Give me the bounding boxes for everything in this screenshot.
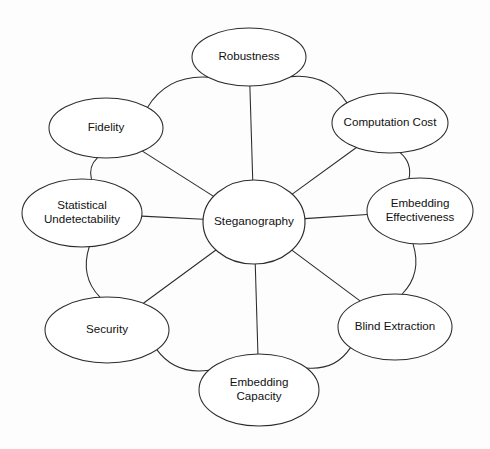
node-label-embedding-effectiveness-line2: Effectiveness [386, 210, 455, 223]
node-label-blind-extraction: Blind Extraction [355, 319, 436, 332]
node-robustness[interactable]: Robustness [192, 28, 306, 86]
diagram-canvas: RobustnessComputation CostEmbeddingEffec… [0, 0, 490, 449]
spoke-steganography-to-embedding-effectiveness [305, 214, 367, 218]
node-blind-extraction[interactable]: Blind Extraction [338, 294, 452, 360]
spoke-steganography-to-robustness [250, 86, 253, 180]
ring-edge-security-to-statistical-undetectability [86, 247, 100, 297]
ring-edge-robustness-to-computation-cost [291, 76, 347, 103]
nodes-group: RobustnessComputation CostEmbeddingEffec… [22, 28, 473, 426]
node-label-security: Security [86, 322, 128, 335]
concept-map-svg: RobustnessComputation CostEmbeddingEffec… [0, 0, 490, 449]
ring-edge-computation-cost-to-embedding-effectiveness [400, 153, 410, 179]
node-label-embedding-capacity-line2: Capacity [236, 389, 281, 402]
ring-edge-fidelity-to-robustness [147, 77, 208, 107]
node-embedding-capacity[interactable]: EmbeddingCapacity [199, 354, 319, 426]
node-steganography[interactable]: Steganography [203, 180, 305, 264]
node-embedding-effectiveness[interactable]: EmbeddingEffectiveness [367, 178, 473, 244]
spoke-steganography-to-fidelity [142, 151, 213, 196]
node-label-statistical-undetectability-line2: Undetectability [44, 212, 120, 225]
node-fidelity[interactable]: Fidelity [49, 98, 163, 158]
spoke-steganography-to-computation-cost [292, 147, 356, 194]
ring-edge-embedding-capacity-to-security [157, 350, 209, 371]
spoke-steganography-to-blind-extraction [292, 250, 360, 301]
node-security[interactable]: Security [45, 297, 169, 363]
node-label-statistical-undetectability: Statistical [57, 198, 107, 211]
node-computation-cost[interactable]: Computation Cost [332, 93, 448, 153]
spoke-steganography-to-statistical-undetectability [142, 216, 203, 219]
spoke-steganography-to-embedding-capacity [255, 264, 258, 354]
spoke-steganography-to-security [143, 250, 216, 303]
node-label-embedding-capacity: Embedding [230, 375, 289, 388]
ring-edge-blind-extraction-to-embedding-capacity [306, 348, 350, 369]
node-label-fidelity: Fidelity [88, 120, 125, 133]
node-statistical-undetectability[interactable]: StatisticalUndetectability [22, 179, 142, 247]
ring-edge-statistical-undetectability-to-fidelity [91, 158, 98, 180]
node-label-steganography: Steganography [214, 214, 294, 228]
node-label-computation-cost: Computation Cost [344, 115, 438, 128]
ring-edge-embedding-effectiveness-to-blind-extraction [402, 244, 416, 295]
node-label-embedding-effectiveness: Embedding [391, 196, 450, 209]
node-label-robustness: Robustness [218, 49, 279, 62]
